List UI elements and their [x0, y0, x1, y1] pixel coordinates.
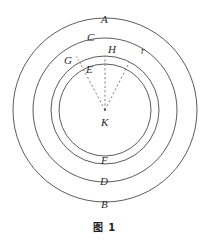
label-G: G	[64, 55, 72, 66]
label-H: H	[108, 44, 116, 55]
label-F: F	[101, 155, 108, 166]
label-D: D	[100, 176, 108, 187]
label-r: r	[141, 46, 145, 57]
label-C: C	[87, 32, 94, 43]
label-A: A	[101, 14, 108, 25]
label-B: B	[101, 199, 108, 210]
label-E: E	[86, 64, 93, 75]
radius-line-r	[105, 62, 130, 110]
figure-container: A C H r G E K F D B 图 1	[0, 0, 209, 246]
label-K: K	[101, 117, 108, 128]
figure-caption: 图 1	[0, 219, 209, 234]
center-point-K	[104, 109, 106, 111]
